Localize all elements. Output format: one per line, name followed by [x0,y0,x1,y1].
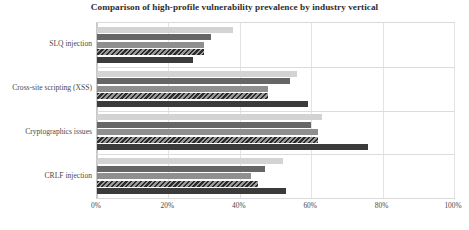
bar-row [97,181,454,187]
bar-row [97,122,454,128]
x-axis: 0%20%40%60%80%100% [96,201,455,215]
bar-row [97,166,454,172]
x-tick-label: 40% [232,201,246,210]
bar-row [97,173,454,179]
x-tick-label: 20% [161,201,175,210]
chart-title: Comparison of high-profile vulnerability… [0,2,469,12]
bar-series-4-1[interactable] [97,93,268,99]
bar-series-5-1[interactable] [97,101,308,107]
gridline-100% [454,23,455,198]
bar-series-5-2[interactable] [97,144,368,150]
bar-series-5-0[interactable] [97,57,193,63]
bar-series-4-3[interactable] [97,181,258,187]
x-tick-label: 60% [303,201,317,210]
bar-series-3-2[interactable] [97,129,318,135]
bar-series-2-1[interactable] [97,78,290,84]
x-tick-label: 0% [91,201,101,210]
bar-series-4-2[interactable] [97,137,318,143]
bar-group [97,67,454,111]
y-tick-label: Cryptographics issues [4,127,92,136]
y-axis: SLQ injectionCross-site scripting (XSS)C… [0,22,92,199]
bar-row [97,34,454,40]
bar-row [97,78,454,84]
bar-series-1-1[interactable] [97,71,297,77]
bar-series-3-0[interactable] [97,42,204,48]
y-tick-label: CRLF injection [4,171,92,180]
bar-row [97,129,454,135]
bar-row [97,101,454,107]
bar-series-4-0[interactable] [97,49,204,55]
bar-row [97,57,454,63]
bar-group [97,154,454,198]
bar-series-3-1[interactable] [97,86,268,92]
bar-row [97,188,454,194]
bar-series-1-3[interactable] [97,158,283,164]
bar-row [97,93,454,99]
bar-row [97,158,454,164]
bar-row [97,144,454,150]
bar-row [97,49,454,55]
bar-row [97,42,454,48]
bar-series-3-3[interactable] [97,173,251,179]
bar-row [97,27,454,33]
bar-series-1-2[interactable] [97,114,322,120]
bar-group [97,111,454,155]
bar-series-2-2[interactable] [97,122,311,128]
y-tick-label: SLQ injection [4,39,92,48]
bar-row [97,86,454,92]
y-tick-label: Cross-site scripting (XSS) [4,83,92,92]
plot-area [96,22,455,199]
bar-row [97,71,454,77]
bar-row [97,137,454,143]
x-tick-label: 80% [375,201,389,210]
x-tick-label: 100% [444,201,461,210]
bar-series-5-3[interactable] [97,188,286,194]
bar-series-1-0[interactable] [97,27,233,33]
bar-chart: Comparison of high-profile vulnerability… [0,0,469,230]
bar-series-2-3[interactable] [97,166,265,172]
bar-series-2-0[interactable] [97,34,211,40]
bar-row [97,114,454,120]
bar-group [97,23,454,67]
